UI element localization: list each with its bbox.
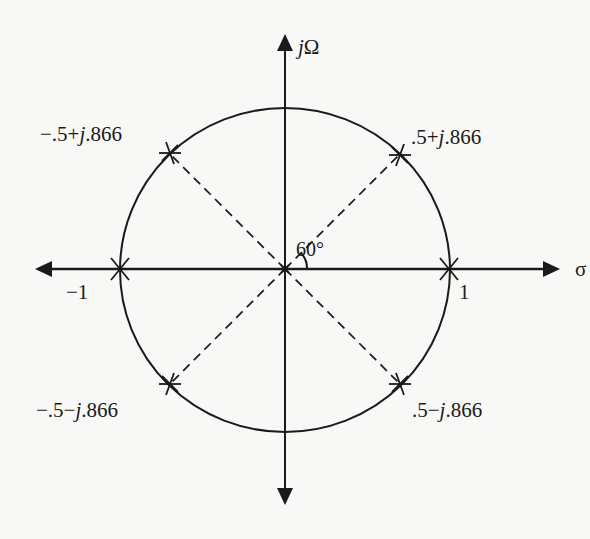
pole-label-p3: −.5−j.866: [36, 400, 118, 421]
arrow-left-icon: [35, 261, 52, 277]
pole-label-p1: −.5+j.866: [40, 124, 122, 145]
angle-label: 60°: [296, 239, 324, 259]
arrow-down-icon: [277, 488, 293, 505]
s-plane-diagram: jΩ σ 60° −1 1 −.5+j.866 .5+j.866 −.5−j.8…: [0, 0, 590, 539]
arrow-up-icon: [277, 34, 293, 51]
tick-label-pos-one: 1: [459, 282, 470, 303]
diagram-graphics: [0, 0, 590, 539]
arrow-right-icon: [543, 261, 560, 277]
tick-label-neg-one: −1: [66, 282, 88, 303]
pole-label-p2: .5+j.866: [411, 127, 481, 148]
pole-label-p4: .5−j.866: [412, 400, 482, 421]
jomega-axis-label: jΩ: [298, 37, 319, 58]
sigma-axis-label: σ: [575, 259, 586, 280]
sigma-axis: [35, 261, 560, 277]
